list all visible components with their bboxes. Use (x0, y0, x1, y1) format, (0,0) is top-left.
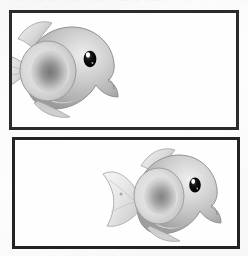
tail-fin-spot (120, 193, 123, 196)
fish-drawing-2 (97, 146, 229, 246)
figure-1-canvas (12, 13, 236, 127)
clipped-header-text: ▬▬ ▬▬▬ ▬▬ ▬▬▬ ▬▬ ▬▬ ▬▬ ▬▬ ▬ ▬ ▬ ▬ (0, 0, 248, 9)
eye (189, 178, 201, 193)
figure-frame-2 (12, 137, 240, 249)
clipped-header-text-left: ▬▬ ▬▬▬ ▬▬ ▬▬▬ ▬▬ ▬▬ (3, 0, 164, 3)
eye-highlight (191, 179, 195, 184)
scanned-page: ▬▬ ▬▬▬ ▬▬ ▬▬▬ ▬▬ ▬▬ ▬▬ ▬▬ ▬ ▬ ▬ ▬ (0, 0, 248, 256)
fish-illustration-2 (97, 146, 229, 246)
figure-frame-1 (9, 10, 239, 130)
fish-illustration-1 (9, 17, 140, 129)
eye-highlight-small (197, 188, 199, 190)
fish-drawing-1 (9, 17, 140, 129)
clipped-header-text-right: ▬▬ ▬▬ ▬ ▬ ▬ ▬ (120, 0, 248, 3)
eye-highlight (86, 52, 90, 57)
eye-highlight-small (92, 62, 94, 64)
eye (84, 51, 97, 67)
figure-2-canvas (15, 140, 237, 246)
